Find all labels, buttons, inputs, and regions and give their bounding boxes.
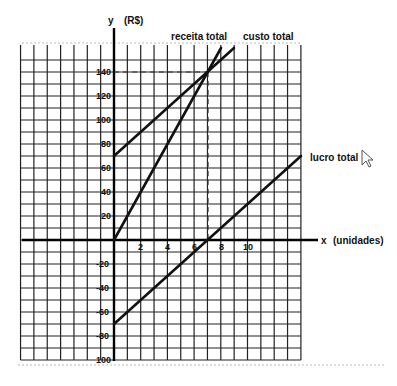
y-axis-label: y (108, 15, 114, 26)
series-custo-total (114, 48, 234, 156)
svg-text:-80: -80 (96, 331, 109, 341)
label-receita-total: receita total (171, 31, 227, 42)
svg-text:-60: -60 (96, 307, 109, 317)
svg-text:60: 60 (101, 163, 111, 173)
svg-text:20: 20 (101, 211, 111, 221)
label-lucro-total: lucro total (310, 152, 359, 163)
svg-text:-20: -20 (96, 259, 109, 269)
svg-text:80: 80 (101, 139, 111, 149)
svg-text:120: 120 (96, 91, 111, 101)
svg-text:10: 10 (243, 242, 253, 252)
svg-text:140: 140 (96, 67, 111, 77)
svg-text:4: 4 (165, 242, 170, 252)
svg-text:100: 100 (96, 115, 111, 125)
x-axis-unit: (unidades) (333, 235, 384, 246)
y-axis-unit: (R$) (124, 15, 143, 26)
mouse-pointer-icon (362, 150, 373, 167)
svg-text:6: 6 (192, 242, 197, 252)
grid (21, 45, 301, 360)
svg-text:8: 8 (219, 242, 224, 252)
svg-text:-40: -40 (96, 283, 109, 293)
svg-text:2: 2 (138, 242, 143, 252)
svg-text:100: 100 (96, 355, 111, 365)
label-custo-total: custo total (243, 31, 294, 42)
x-axis-label: x (321, 235, 327, 246)
svg-text:40: 40 (101, 187, 111, 197)
chart-canvas: y (R$) x (unidades) receita total custo … (0, 0, 397, 386)
x-tick-labels: 2 4 6 8 10 (138, 242, 253, 252)
